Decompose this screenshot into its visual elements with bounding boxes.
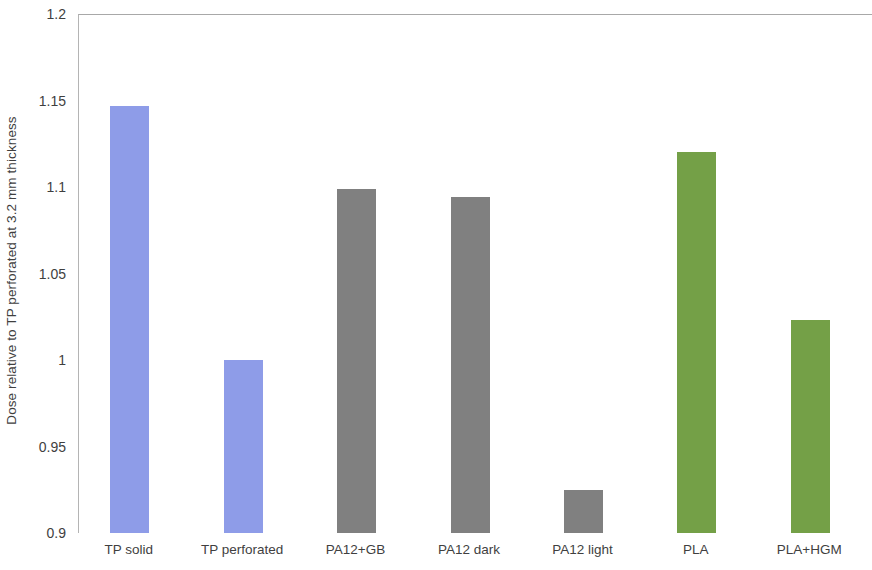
x-axis-tick-labels: TP solidTP perforatedPA12+GBPA12 darkPA1… <box>78 537 872 570</box>
y-axis-title: Dose relative to TP perforated at 3.2 mm… <box>0 0 22 540</box>
x-axis-tick-label: TP solid <box>104 542 153 557</box>
bar <box>224 360 263 533</box>
y-axis-tick-label: 1.15 <box>39 93 66 109</box>
y-axis-tick-label: 1.2 <box>47 6 66 22</box>
y-axis-tick-label: 1.05 <box>39 266 66 282</box>
bar <box>564 490 603 533</box>
x-axis-tick-label: PA12 dark <box>438 542 500 557</box>
y-axis-tick-label: 1 <box>58 352 66 368</box>
y-axis-tick-label: 0.9 <box>47 525 66 541</box>
bar <box>451 197 490 533</box>
x-axis-tick-label: PA12+GB <box>326 542 385 557</box>
bars-layer <box>79 15 872 533</box>
x-axis-tick-label: PLA <box>683 542 709 557</box>
bar-chart: Dose relative to TP perforated at 3.2 mm… <box>0 0 872 570</box>
x-axis-tick-label: PLA+HGM <box>777 542 842 557</box>
y-axis-tick-labels: 1.21.151.11.0510.950.9 <box>22 0 72 570</box>
plot-area <box>78 14 872 533</box>
y-axis-tick-label: 0.95 <box>39 439 66 455</box>
y-axis-title-text: Dose relative to TP perforated at 3.2 mm… <box>4 116 19 424</box>
bar <box>791 320 830 533</box>
bar <box>337 189 376 533</box>
x-axis-tick-label: TP perforated <box>201 542 283 557</box>
bar <box>110 106 149 533</box>
bar <box>677 152 716 533</box>
y-axis-tick-label: 1.1 <box>47 179 66 195</box>
x-axis-tick-label: PA12 light <box>552 542 613 557</box>
